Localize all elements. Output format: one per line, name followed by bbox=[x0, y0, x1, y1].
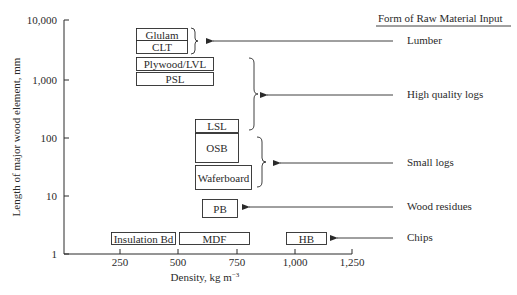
product-label: Plywood/LVL bbox=[144, 58, 207, 70]
brace-small-logs bbox=[257, 137, 266, 187]
x-axis-label: Density, kg m−3 bbox=[171, 271, 240, 283]
product-box-glulam: Glulam bbox=[137, 29, 188, 41]
product-box-hb: HB bbox=[287, 233, 327, 245]
product-label: OSB bbox=[206, 142, 227, 154]
product-label: Waferboard bbox=[198, 172, 250, 184]
product-label: LSL bbox=[207, 120, 227, 132]
raw-input-label: Chips bbox=[407, 231, 433, 243]
product-box-clt: CLT bbox=[137, 41, 188, 54]
product-box-insulation-bd: Insulation Bd bbox=[112, 233, 176, 245]
braces bbox=[191, 28, 266, 187]
product-label: MDF bbox=[203, 233, 227, 245]
raw-input-label: Small logs bbox=[407, 156, 454, 168]
x-axis: 2505007501,0001,250 Density, kg m−3 bbox=[64, 249, 365, 283]
y-tick-label: 1,000 bbox=[32, 74, 57, 86]
product-box-lsl: LSL bbox=[196, 120, 239, 133]
x-tick-label: 750 bbox=[229, 256, 246, 268]
raw-input-label: Lumber bbox=[407, 34, 442, 46]
x-tick-label: 250 bbox=[112, 256, 129, 268]
raw-input-label: Wood residues bbox=[407, 200, 472, 212]
brace-lumber bbox=[191, 28, 198, 54]
y-tick-label: 1 bbox=[52, 248, 58, 260]
product-label: HB bbox=[299, 233, 314, 245]
wood-products-diagram: 10,0001,000100101 Length of major wood e… bbox=[0, 0, 517, 295]
raw-input-high-quality-logs: High quality logs bbox=[267, 88, 483, 100]
brace-high-quality-logs bbox=[249, 58, 258, 130]
product-boxes: GlulamCLTPlywood/LVLPSLLSLOSBWaferboardP… bbox=[112, 29, 327, 245]
y-axis: 10,0001,000100101 Length of major wood e… bbox=[10, 14, 69, 260]
product-label: Glulam bbox=[146, 29, 179, 41]
product-box-psl: PSL bbox=[137, 73, 214, 86]
product-label: PB bbox=[213, 203, 226, 215]
product-label: PSL bbox=[166, 73, 185, 85]
y-axis-label: Length of major wood element, mm bbox=[10, 57, 22, 216]
y-tick-label: 100 bbox=[41, 132, 58, 144]
raw-input-small-logs: Small logs bbox=[280, 156, 454, 168]
product-box-pb: PB bbox=[203, 200, 238, 218]
product-box-plywood-lvl: Plywood/LVL bbox=[137, 58, 214, 71]
raw-input-lumber: Lumber bbox=[213, 34, 442, 46]
raw-input-label: High quality logs bbox=[407, 88, 483, 100]
raw-input-chips: Chips bbox=[337, 231, 433, 243]
product-box-waferboard: Waferboard bbox=[196, 166, 252, 190]
y-tick-label: 10 bbox=[46, 190, 58, 202]
product-box-osb: OSB bbox=[196, 134, 239, 163]
x-tick-label: 1,250 bbox=[340, 256, 365, 268]
x-tick-label: 500 bbox=[170, 256, 187, 268]
product-label: CLT bbox=[152, 41, 172, 53]
y-tick-label: 10,000 bbox=[27, 14, 58, 26]
product-box-mdf: MDF bbox=[180, 233, 250, 245]
raw-input-wood-residues: Wood residues bbox=[249, 200, 472, 212]
x-tick-label: 1,000 bbox=[283, 256, 308, 268]
product-label: Insulation Bd bbox=[114, 233, 174, 245]
legend-title: Form of Raw Material Input bbox=[378, 12, 503, 24]
